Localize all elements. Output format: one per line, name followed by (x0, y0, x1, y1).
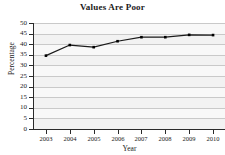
x-axis-tick (46, 130, 47, 134)
x-axis-tick (141, 130, 142, 134)
x-axis-tick-label: 2007 (128, 135, 154, 142)
y-axis-tick-label: 5 (7, 115, 27, 122)
x-axis-tick (165, 130, 166, 134)
x-axis-tick (189, 130, 190, 134)
x-axis-tick-label: 2009 (176, 135, 202, 142)
x-axis-tick (94, 130, 95, 134)
x-axis-line (33, 129, 225, 130)
data-point-marker (164, 36, 167, 39)
y-axis-tick (29, 108, 33, 109)
y-axis-tick-label: 15 (7, 94, 27, 101)
y-axis-tick-label: 40 (7, 41, 27, 48)
y-axis-tick (29, 44, 33, 45)
x-axis-tick-label: 2010 (200, 135, 225, 142)
y-axis-tick-label: 30 (7, 62, 27, 69)
x-axis-tick (118, 130, 119, 134)
y-axis-tick (29, 129, 33, 130)
y-axis-tick-label: 35 (7, 51, 27, 58)
y-axis-tick (29, 55, 33, 56)
data-point-marker (45, 54, 48, 57)
data-point-marker (116, 40, 119, 43)
y-axis-tick-label: 0 (7, 126, 27, 133)
x-axis-tick (213, 130, 214, 134)
x-axis-tick-label: 2008 (152, 135, 178, 142)
x-axis-title: Year (34, 144, 225, 153)
y-axis-tick-label: 20 (7, 83, 27, 90)
y-axis-tick (29, 23, 33, 24)
y-axis-tick-label: 45 (7, 30, 27, 37)
data-point-marker (188, 34, 191, 37)
x-axis-tick (70, 130, 71, 134)
x-axis-tick-label: 2004 (57, 135, 83, 142)
data-point-marker (140, 36, 143, 39)
chart-title: Values Are Poor (0, 2, 225, 12)
y-axis-tick (29, 65, 33, 66)
data-point-marker (69, 44, 72, 47)
data-point-marker (92, 46, 95, 49)
y-axis-tick-label: 50 (7, 20, 27, 27)
x-axis-tick-label: 2003 (33, 135, 59, 142)
y-axis-tick (29, 118, 33, 119)
y-axis-tick (29, 34, 33, 35)
y-axis-tick-label: 25 (7, 73, 27, 80)
line-chart: Values Are Poor Percentage Year 05101520… (0, 0, 225, 155)
y-axis-line (33, 23, 34, 130)
x-axis-tick-label: 2005 (81, 135, 107, 142)
y-axis-tick (29, 97, 33, 98)
series-layer (34, 23, 225, 129)
plot-area (34, 23, 225, 129)
y-axis-tick-label: 10 (7, 104, 27, 111)
y-axis-tick (29, 76, 33, 77)
data-point-marker (212, 34, 215, 37)
y-axis-tick (29, 87, 33, 88)
